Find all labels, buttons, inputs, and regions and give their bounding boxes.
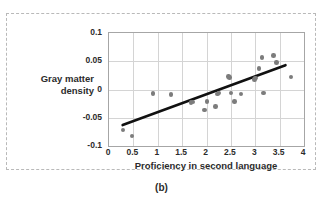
scatter-point [151, 91, 156, 96]
y-tick-label: 0.05 [72, 55, 102, 65]
scatter-point [202, 108, 207, 113]
scatter-point [271, 53, 276, 58]
x-tick-label: 4 [288, 147, 318, 157]
y-tick-label: -0.05 [72, 112, 102, 122]
scatter-point [261, 91, 266, 96]
scatter-point [227, 75, 232, 80]
regression-line [109, 33, 304, 146]
scatter-point [274, 60, 279, 65]
scatter-point [213, 104, 218, 109]
scatter-point [169, 92, 174, 97]
scatter-point [232, 99, 237, 104]
plot-area [108, 32, 305, 147]
figure-caption: (b) [0, 182, 323, 193]
figure-panel: Gray matter density 00.511.522.533.54 -0… [0, 0, 323, 208]
y-tick-label: 0.1 [72, 27, 102, 37]
plot-inner [109, 33, 304, 146]
x-axis-title: Proficiency in second language [108, 160, 304, 171]
scatter-point [205, 99, 210, 104]
y-tick-label: -0.1 [72, 140, 102, 150]
scatter-point [260, 55, 265, 60]
y-tick-label: 0 [72, 84, 102, 94]
